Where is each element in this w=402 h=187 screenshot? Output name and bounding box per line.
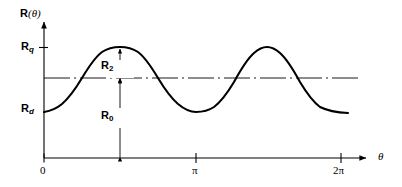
y-axis-title-base: R [20, 7, 28, 19]
label-R2-base: R [101, 59, 109, 71]
label-R2: R2 [101, 60, 113, 71]
y-axis-title-paren-close: ) [37, 7, 41, 19]
label-Rd-subscript: d [29, 107, 34, 116]
xtick-label-2pi: 2π [333, 165, 344, 176]
xtick-label-pi: π [192, 165, 198, 176]
y-axis [39, 22, 48, 158]
label-R0-base: R [101, 109, 109, 121]
label-R0-subscript: 0 [109, 114, 113, 123]
x-axis-title: θ [378, 151, 383, 162]
label-Rd: Rd [21, 103, 34, 114]
figure-container: R(θ) Rq Rd R2 R0 0 π 2π θ [0, 0, 402, 187]
annotation-arrow-R0 [108, 60, 134, 157]
label-Rq: Rq [21, 41, 34, 52]
y-axis-title: R(θ) [20, 8, 41, 19]
label-R2-subscript: 2 [109, 64, 113, 73]
label-Rd-base: R [21, 102, 29, 114]
xtick-label-0: 0 [40, 165, 46, 176]
label-R0: R0 [101, 110, 113, 121]
x-axis [44, 153, 366, 163]
label-Rq-base: R [21, 40, 29, 52]
curve-R-theta [44, 47, 348, 113]
label-Rq-subscript: q [29, 45, 34, 54]
plot-svg [0, 0, 402, 187]
